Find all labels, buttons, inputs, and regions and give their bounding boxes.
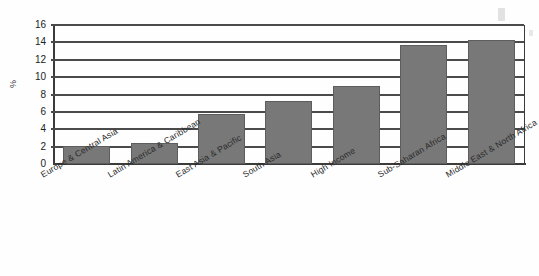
x-label-slot: Middle East & North Africa bbox=[444, 167, 512, 267]
x-label-slot: South Asia bbox=[241, 167, 309, 267]
x-label-slot: High Income bbox=[309, 167, 377, 267]
bar-slot bbox=[255, 25, 322, 164]
y-tick-label-10: 10 bbox=[24, 73, 46, 81]
y-tick-label-14: 14 bbox=[24, 38, 46, 46]
bars-container bbox=[53, 25, 525, 164]
scan-artifact-secondary bbox=[529, 30, 533, 36]
y-tick-label-8: 8 bbox=[24, 91, 46, 99]
y-tick-label-6: 6 bbox=[24, 108, 46, 116]
x-label-slot: East Asia & Pacific bbox=[174, 167, 242, 267]
y-tick-label-12: 12 bbox=[24, 56, 46, 64]
x-axis-tick-labels: Europe & Central AsiaLatin America & Car… bbox=[53, 167, 525, 267]
scan-artifact bbox=[498, 8, 505, 21]
bar-chart: % 1614121086420 Europe & Central AsiaLat… bbox=[0, 0, 539, 276]
y-tick-label-2: 2 bbox=[24, 143, 46, 151]
y-tick-label-16: 16 bbox=[24, 21, 46, 29]
bar-slot bbox=[323, 25, 390, 164]
x-label-slot: Latin America & Caribbean bbox=[106, 167, 174, 267]
x-label-slot: Sub-Saharan Africa bbox=[376, 167, 444, 267]
y-tick-label-4: 4 bbox=[24, 125, 46, 133]
x-label-slot: Europe & Central Asia bbox=[39, 167, 107, 267]
y-axis-title: % bbox=[8, 79, 18, 88]
